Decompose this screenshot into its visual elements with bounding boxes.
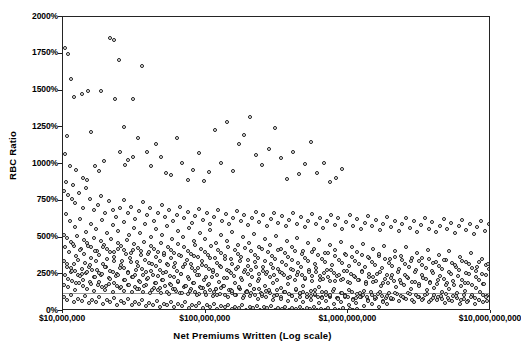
data-point (443, 301, 447, 305)
data-point (171, 219, 175, 223)
data-point (301, 249, 305, 253)
data-point (317, 238, 321, 242)
data-point (159, 155, 163, 159)
data-point (332, 287, 336, 291)
data-point (183, 300, 187, 304)
data-point (160, 203, 164, 207)
data-point (230, 230, 234, 234)
data-point (361, 242, 365, 246)
data-point (179, 272, 183, 276)
data-point (366, 299, 370, 303)
data-point (97, 169, 101, 173)
data-point (257, 272, 261, 276)
data-point (186, 178, 190, 182)
y-tick-label: 1250% (14, 122, 58, 131)
data-point (370, 224, 374, 228)
data-point (134, 268, 138, 272)
data-point (404, 245, 408, 249)
data-point (115, 303, 119, 307)
data-point (63, 46, 67, 50)
data-point (487, 267, 490, 271)
data-point (392, 279, 396, 283)
data-point (122, 289, 126, 293)
data-point (473, 302, 477, 306)
data-point (163, 215, 167, 219)
data-point (100, 272, 104, 276)
data-point (269, 262, 273, 266)
data-point (180, 161, 184, 165)
data-point (122, 266, 126, 270)
data-point (267, 147, 271, 151)
data-point (436, 278, 440, 282)
data-point (67, 250, 71, 254)
data-point (453, 263, 457, 267)
data-point (303, 162, 307, 166)
data-point (291, 211, 295, 215)
data-point (190, 221, 194, 225)
data-point (366, 255, 370, 259)
data-point (175, 213, 179, 217)
data-point (306, 241, 310, 245)
data-point (80, 92, 84, 96)
data-point (279, 156, 283, 160)
data-point (149, 269, 153, 273)
data-point (213, 256, 217, 260)
data-point (453, 231, 457, 235)
data-point (360, 270, 364, 274)
y-tick-label: 1000% (14, 159, 58, 168)
data-point (449, 272, 453, 276)
data-point (341, 306, 345, 310)
x-tick-label: $100,000,000 (179, 313, 230, 323)
data-point (299, 215, 303, 219)
data-point (355, 217, 359, 221)
data-point (173, 287, 177, 291)
data-point (141, 290, 145, 294)
data-point (229, 257, 233, 261)
data-point (149, 164, 153, 168)
data-point (100, 218, 104, 222)
data-point (208, 222, 212, 226)
data-point (88, 263, 92, 267)
data-point (189, 262, 193, 266)
data-point (193, 214, 197, 218)
data-point (265, 270, 269, 274)
data-point (127, 233, 131, 237)
data-point (69, 293, 73, 297)
data-point (92, 289, 96, 293)
data-point (65, 134, 69, 138)
data-point (314, 222, 318, 226)
data-point (350, 245, 354, 249)
data-point (485, 299, 489, 303)
data-point (431, 271, 435, 275)
data-point (64, 212, 68, 216)
data-point (483, 229, 487, 233)
data-point (141, 200, 145, 204)
data-point (111, 208, 115, 212)
data-point (186, 210, 190, 214)
data-point (80, 299, 84, 303)
data-point (389, 225, 393, 229)
data-point (452, 283, 456, 287)
data-point (463, 289, 467, 293)
data-point (400, 222, 404, 226)
x-tick-label: $10,000,000,000 (459, 313, 521, 323)
data-point (399, 254, 403, 258)
data-point (344, 253, 348, 257)
data-point (211, 268, 215, 272)
data-point (118, 206, 122, 210)
data-point (250, 216, 254, 220)
data-point (158, 259, 162, 263)
data-point (126, 211, 130, 215)
data-point (420, 298, 424, 302)
data-point (140, 298, 144, 302)
data-point (199, 286, 203, 290)
data-point (154, 142, 158, 146)
data-point (172, 275, 176, 279)
data-point (101, 302, 105, 306)
data-point (260, 292, 264, 296)
data-point (450, 299, 454, 303)
x-axis-title-label: Net Premiums Written (Log scale) (173, 330, 331, 341)
data-point (334, 176, 338, 180)
data-point (444, 283, 448, 287)
data-point (105, 231, 109, 235)
